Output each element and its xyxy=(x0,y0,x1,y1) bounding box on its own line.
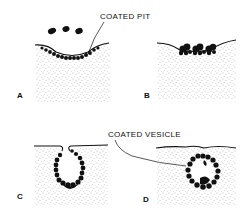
panel-b: B xyxy=(144,40,236,100)
label-coated-vesicle: COATED VESICLE xyxy=(108,130,181,139)
panel-label-a: A xyxy=(17,91,23,100)
membrane-d xyxy=(156,146,236,148)
cell-cytoplasm-a xyxy=(36,43,110,102)
label-coated-pit: COATED PIT xyxy=(100,12,150,21)
panel-label-d: D xyxy=(143,195,149,204)
panel-d: D xyxy=(143,146,236,205)
free-coat-particles-a xyxy=(47,25,84,35)
panel-label-c: C xyxy=(17,192,23,201)
panel-a: A xyxy=(17,25,110,102)
panel-c: C xyxy=(17,145,108,205)
endocytosis-diagram: A COATED PIT B xyxy=(0,0,249,215)
panel-label-b: B xyxy=(144,91,150,100)
